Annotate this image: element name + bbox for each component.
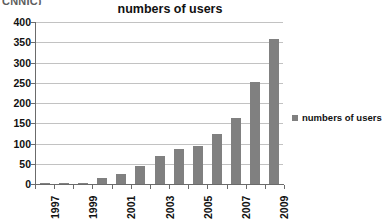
bar — [269, 39, 279, 184]
x-axis-tick-label: 2001 — [126, 189, 137, 219]
x-axis-tick-label: 2005 — [203, 189, 214, 219]
x-axis-tick-label: 1999 — [88, 189, 99, 219]
y-axis-tick-label: 300 — [3, 58, 31, 68]
bar — [212, 134, 222, 184]
bar — [135, 166, 145, 184]
legend-swatch-icon — [292, 115, 298, 121]
y-axis-tick-label: 50 — [3, 159, 31, 169]
x-axis-tick-label: 1997 — [50, 189, 61, 219]
y-axis-labels: 050100150200250300350400 — [0, 0, 31, 222]
bar — [231, 118, 241, 184]
y-axis-tick-label: 0 — [3, 179, 31, 189]
bar — [193, 146, 203, 184]
chart-title: numbers of users — [60, 2, 280, 16]
bar — [174, 149, 184, 184]
x-axis-tick-label: 2007 — [241, 189, 252, 219]
bar — [40, 183, 50, 184]
bar — [78, 183, 88, 184]
x-axis-tick-label: 2003 — [165, 189, 176, 219]
y-axis-tick-label: 250 — [3, 78, 31, 88]
y-axis-tick-label: 350 — [3, 37, 31, 47]
bar — [59, 183, 69, 184]
x-axis-labels: 1997199920012003200520072009 — [35, 189, 284, 222]
legend-label: numbers of users — [302, 112, 382, 123]
x-axis-tick-label: 2009 — [279, 189, 290, 219]
bar — [97, 178, 107, 184]
y-axis-tick-label: 150 — [3, 118, 31, 128]
bars-group — [35, 22, 284, 184]
y-axis-tick-label: 200 — [3, 98, 31, 108]
y-axis-tick-label: 400 — [3, 17, 31, 27]
legend: numbers of users — [292, 112, 382, 123]
bar — [250, 82, 260, 184]
bar — [116, 174, 126, 184]
y-axis-tick-label: 100 — [3, 139, 31, 149]
bar — [155, 156, 165, 184]
